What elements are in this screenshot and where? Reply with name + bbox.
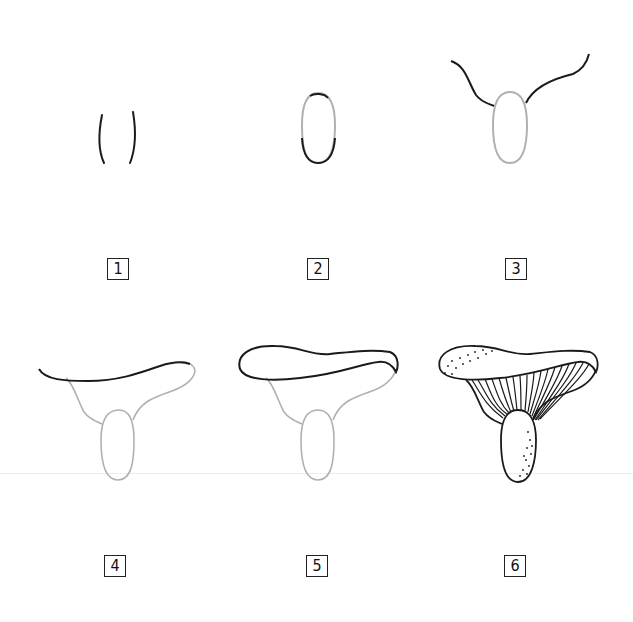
step-5-drawing xyxy=(239,346,397,480)
step-label-6: 6 xyxy=(504,555,526,577)
step-2-drawing xyxy=(302,93,335,163)
mushroom-steps-illustration xyxy=(0,0,633,622)
step-label-2: 2 xyxy=(307,258,329,280)
step-1-drawing xyxy=(99,112,135,163)
step-label-1: 1 xyxy=(107,258,129,280)
step-label-4: 4 xyxy=(104,555,126,577)
step-label-5: 5 xyxy=(306,555,328,577)
step-label-3: 3 xyxy=(505,258,527,280)
step-3-drawing xyxy=(451,54,589,163)
step-4-drawing xyxy=(39,362,195,480)
drawing-steps-figure: 1 2 3 4 5 6 xyxy=(0,0,633,622)
step-6-drawing xyxy=(439,346,597,482)
